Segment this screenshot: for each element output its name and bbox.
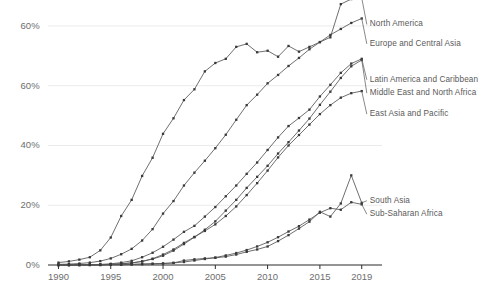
series-label: Sub-Saharan Africa (370, 209, 443, 219)
x-axis-tick-label: 2010 (246, 271, 290, 282)
series-marker (266, 245, 268, 247)
series-marker (225, 215, 227, 217)
series-marker (214, 62, 216, 64)
series-marker (235, 119, 237, 121)
series-label: East Asia and Pacific (370, 109, 449, 119)
series-marker (340, 77, 342, 79)
series-marker (246, 173, 248, 175)
series-marker (151, 252, 153, 254)
series-marker (329, 104, 331, 106)
series-marker (183, 261, 185, 263)
series-marker (350, 201, 352, 203)
series-marker (120, 253, 122, 255)
series-marker (89, 256, 91, 258)
series-marker (319, 212, 321, 214)
series-marker (151, 228, 153, 230)
series-marker (68, 264, 70, 266)
grid-lines (48, 26, 382, 205)
series-label: North America (370, 19, 423, 29)
series-marker (57, 264, 59, 266)
series-marker (246, 43, 248, 45)
series-marker (141, 263, 143, 265)
series-label: Latin America and Caribbean (370, 75, 478, 85)
series-marker (204, 70, 206, 72)
series-marker (287, 45, 289, 47)
series-marker (287, 144, 289, 146)
series-marker (172, 248, 174, 250)
series-marker (287, 230, 289, 232)
series-marker (235, 46, 237, 48)
series-marker (319, 104, 321, 106)
series-marker (298, 227, 300, 229)
series-marker (287, 141, 289, 143)
series-marker (350, 92, 352, 94)
series-marker (298, 57, 300, 59)
series-marker (183, 99, 185, 101)
x-axis-tick-label: 1990 (36, 271, 80, 282)
series-marker (183, 242, 185, 244)
series-marker (266, 50, 268, 52)
series-marker (99, 260, 101, 262)
series-marker (329, 84, 331, 86)
series-marker (340, 209, 342, 211)
series-marker (141, 256, 143, 258)
series-marker (350, 65, 352, 67)
series-marker (151, 157, 153, 159)
series-marker (277, 240, 279, 242)
series-marker (340, 3, 342, 5)
series-marker (340, 28, 342, 30)
series-marker (235, 184, 237, 186)
series-marker (246, 187, 248, 189)
series-marker (287, 234, 289, 236)
series-marker (340, 202, 342, 204)
annotation-leaders (362, 0, 367, 214)
series-marker (204, 258, 206, 260)
series-marker (350, 22, 352, 24)
series-marker (162, 246, 164, 248)
series-marker (172, 262, 174, 264)
series-marker (266, 169, 268, 171)
series-marker (256, 248, 258, 250)
series-label: Europe and Central Asia (370, 39, 461, 49)
series-marker (277, 156, 279, 158)
series-marker (131, 260, 133, 262)
series-label: South Asia (370, 196, 410, 206)
series-marker (266, 82, 268, 84)
series-marker (141, 239, 143, 241)
series-marker (78, 258, 80, 260)
series-marker (89, 264, 91, 266)
series-marker (235, 252, 237, 254)
series-marker (277, 152, 279, 154)
series-marker (214, 147, 216, 149)
series-marker (235, 199, 237, 201)
series-marker (131, 263, 133, 265)
y-axis-tick-label: 20% (0, 199, 40, 210)
series-line-2 (58, 59, 361, 265)
series-marker (225, 209, 227, 211)
series-marker (162, 212, 164, 214)
series-marker (89, 261, 91, 263)
series-marker (141, 260, 143, 262)
series-marker (298, 225, 300, 227)
series-marker (204, 215, 206, 217)
series-marker (308, 221, 310, 223)
series-marker (225, 254, 227, 256)
series-marker (225, 134, 227, 136)
series-marker (319, 41, 321, 43)
series-marker (256, 176, 258, 178)
series-marker (162, 262, 164, 264)
series-marker (204, 230, 206, 232)
series-marker (172, 238, 174, 240)
series-marker (172, 117, 174, 119)
series-marker (266, 165, 268, 167)
series-marker (256, 245, 258, 247)
series-marker (308, 117, 310, 119)
series-marker (99, 249, 101, 251)
series-marker (235, 205, 237, 207)
series-marker (110, 264, 112, 266)
series-marker (246, 249, 248, 251)
series-marker (214, 256, 216, 258)
series-marker (193, 88, 195, 90)
series-marker (193, 236, 195, 238)
series-marker (308, 218, 310, 220)
